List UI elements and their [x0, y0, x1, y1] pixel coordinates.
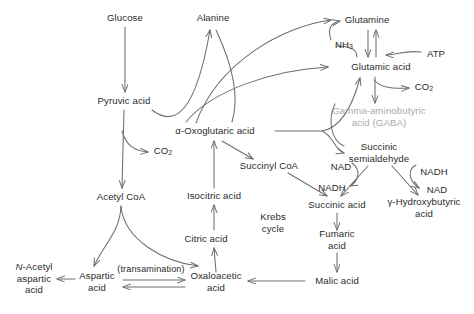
- node-oxaloacetic-acid: Oxaloaceticacid: [190, 270, 241, 293]
- node-hydroxybutyric: γ-Hydroxybutyricacid: [387, 196, 460, 219]
- node-co2-glutamic: CO2: [415, 81, 434, 95]
- edge-oxoglutaric-to-glutamic-acid: [186, 67, 328, 122]
- node-pyruvic-acid: Pyruvic acid: [98, 95, 151, 107]
- edge-pyruvic-acid-to-alanine: [152, 30, 210, 117]
- node-nad-left: NAD: [331, 161, 352, 173]
- node-fumaric-acid: Fumaricacid: [319, 228, 354, 251]
- node-nadh-left: NADH: [318, 182, 346, 194]
- edge-acetyl-coa-to-aspartic-acid: [94, 206, 121, 266]
- node-citric-acid: Citric acid: [184, 233, 227, 245]
- node-succinic-acid: Succinic acid: [308, 199, 365, 211]
- edge-oxoglutaric-to-glutamine: [196, 20, 331, 123]
- node-nad-right: NAD: [427, 184, 448, 196]
- pathway-diagram: GlucoseAlanineGlutamineNH3ATPGlutamic ac…: [0, 0, 474, 314]
- node-succinic-semi: Succinicsemialdehyde: [349, 141, 409, 164]
- edge-pyruvic-acid-to-acetyl-coa: [122, 110, 124, 188]
- node-aspartic-acid: Asparticacid: [79, 270, 114, 293]
- node-transamination: (transamination): [117, 264, 184, 276]
- edge-oxaloacetic-acid-to-citric-acid: [214, 248, 216, 272]
- node-gaba: Gamma-aminobutyricacid (GABA): [332, 105, 426, 128]
- edge-nadh-to-nad-right: [410, 165, 419, 188]
- node-co2-pyruvate: CO2: [154, 145, 173, 159]
- node-malic-acid: Malic acid: [315, 275, 359, 287]
- edge-atp-to-glutamine: [386, 52, 421, 55]
- node-oxoglutaric-acid: α-Oxoglutaric acid: [175, 125, 254, 137]
- node-nadh-right: NADH: [420, 166, 448, 178]
- node-ammonia: NH3: [335, 39, 353, 53]
- node-glucose: Glucose: [107, 12, 143, 24]
- node-glutamic-acid: Glutamic acid: [351, 61, 410, 73]
- node-glutamine: Glutamine: [345, 14, 390, 26]
- edge-glutamic-acid-to-co2: [374, 80, 409, 88]
- edge-succinic-semialdehyde-to-hydroxybutyric-acid: [392, 166, 418, 195]
- node-n-acetyl-aspartic: N-Acetylasparticacid: [15, 261, 52, 296]
- edge-oxoglutaric-to-succinyl-coa: [222, 141, 253, 159]
- node-acetyl-coa: Acetyl CoA: [97, 191, 145, 203]
- node-isocitric-acid: Isocitric acid: [187, 190, 241, 202]
- node-alanine: Alanine: [197, 12, 230, 24]
- node-krebs-cycle: Krebscycle: [260, 211, 286, 234]
- edge-pyruvic-acid-to-co2: [122, 131, 148, 152]
- node-succinyl-coa: Succinyl CoA: [240, 160, 298, 172]
- edge-ammonia-to-glutamine: [329, 21, 340, 40]
- node-atp: ATP: [427, 48, 445, 60]
